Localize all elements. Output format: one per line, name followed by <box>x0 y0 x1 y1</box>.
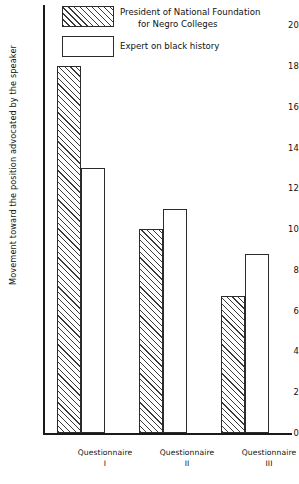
bar-chart-figure: Movement toward the position advocated b… <box>0 0 299 484</box>
legend-label-president-line1: President of National Foundation <box>120 7 260 17</box>
bar-series1-group3 <box>221 296 245 433</box>
bar-group-3 <box>221 5 269 433</box>
legend-swatch-hatched-icon <box>62 6 114 27</box>
x-category-label-1: QuestionnaireI <box>59 447 151 469</box>
legend-label-president: President of National Foundationfor Negr… <box>120 6 260 30</box>
x-category-roman-3: III <box>223 458 299 469</box>
y-axis-title: Movement toward the position advocated b… <box>8 0 18 330</box>
plot-area <box>45 5 292 433</box>
bar-series2-group1 <box>81 168 105 433</box>
legend-item-expert: Expert on black history <box>62 36 260 57</box>
bar-series2-group3 <box>245 254 269 433</box>
x-category-label-2: QuestionnaireII <box>141 447 233 469</box>
x-category-label-3: QuestionnaireIII <box>223 447 299 469</box>
x-category-roman-1: I <box>59 458 151 469</box>
x-category-name-1: Questionnaire <box>78 448 132 457</box>
legend-label-expert: Expert on black history <box>120 36 219 53</box>
bar-group-2 <box>139 5 187 433</box>
bar-group-1 <box>57 5 105 433</box>
legend-swatch-white-icon <box>62 36 114 57</box>
bar-series2-group2 <box>163 209 187 433</box>
x-category-name-2: Questionnaire <box>160 448 214 457</box>
bar-series1-group1 <box>57 66 81 433</box>
x-category-name-3: Questionnaire <box>242 448 296 457</box>
legend-item-president: President of National Foundationfor Negr… <box>62 6 260 30</box>
bar-series1-group2 <box>139 229 163 433</box>
legend-label-president-line2: for Negro Colleges <box>120 19 218 31</box>
x-axis-line <box>43 433 292 435</box>
x-category-roman-2: II <box>141 458 233 469</box>
chart-legend: President of National Foundationfor Negr… <box>62 6 260 63</box>
